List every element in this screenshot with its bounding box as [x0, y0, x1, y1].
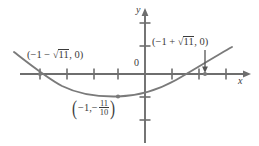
right-operator: +	[169, 36, 175, 47]
vertex-label: (−1,−1110)	[71, 99, 116, 118]
left-minus-one: −1	[31, 49, 42, 60]
right-minus-one: −1	[156, 36, 167, 47]
left-intercept-label: (−1 − √11, 0)	[27, 49, 83, 61]
vertex-fraction: 1110	[99, 99, 110, 118]
vertex-minus-sign: −	[92, 103, 98, 114]
vertex-close-paren: )	[110, 99, 115, 117]
vertex-point-marker	[116, 94, 120, 98]
left-operator: −	[44, 49, 50, 60]
right-radicand: 11	[183, 36, 194, 48]
left-radicand: 11	[58, 49, 69, 61]
right-close-paren: )	[205, 36, 209, 47]
vertex-open-paren: (	[72, 99, 77, 117]
parabola-figure: x y 0 (−1 − √11, 0) (−1 + √11, 0) (−1,−1…	[0, 0, 259, 146]
y-axis-arrowhead	[142, 8, 149, 16]
origin-label: 0	[134, 58, 139, 68]
right-comma-zero: , 0	[194, 36, 205, 47]
x-axis-label: x	[238, 76, 242, 86]
left-intercept-marker	[38, 72, 42, 76]
right-intercept-label: (−1 + √11, 0)	[152, 36, 208, 48]
left-comma-zero: , 0	[69, 49, 80, 60]
left-close-paren: )	[80, 49, 84, 60]
y-axis-label: y	[136, 5, 140, 15]
vertex-x-value: −1,	[78, 103, 92, 114]
right-radical: √11	[178, 36, 194, 48]
x-axis-arrowhead	[243, 71, 251, 78]
graph-canvas	[0, 0, 259, 146]
vertex-fraction-denominator: 10	[99, 107, 110, 117]
left-radical: √11	[53, 49, 69, 61]
vertex-fraction-numerator: 11	[99, 99, 110, 108]
